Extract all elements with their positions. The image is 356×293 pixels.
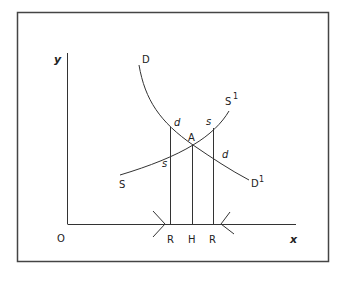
origin-label: O	[57, 233, 65, 244]
demand-start-label: D	[142, 54, 150, 65]
supply-demand-diagram: y x O D D 1 S S 1 A d d s s R H R	[0, 0, 356, 293]
y-axis-label: y	[54, 53, 62, 66]
x-label-h: H	[188, 234, 196, 245]
x-label-r-right: R	[209, 234, 216, 245]
d-lower-label: d	[222, 149, 229, 160]
x-label-r-left: R	[167, 234, 174, 245]
supply-start-label: S	[119, 179, 125, 190]
d-upper-label: d	[174, 117, 181, 128]
demand-end-label: D	[251, 178, 259, 189]
arrow-left-icon	[221, 212, 234, 234]
x-axis-label: x	[289, 233, 298, 246]
equilibrium-label: A	[188, 132, 195, 143]
demand-end-superscript: 1	[259, 175, 264, 184]
s-lower-label: s	[162, 158, 167, 169]
s-upper-label: s	[206, 116, 211, 127]
supply-end-label: S	[225, 96, 231, 107]
supply-end-superscript: 1	[233, 92, 238, 101]
